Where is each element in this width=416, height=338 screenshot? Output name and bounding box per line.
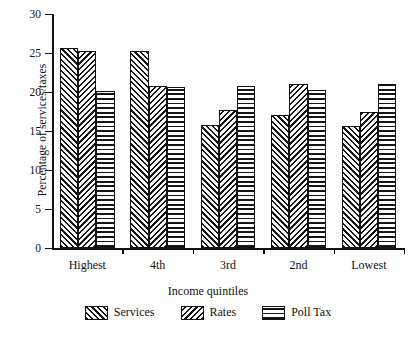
x-axis-line [52,248,404,250]
x-tick [193,248,194,254]
y-tick-label: 0 [35,243,41,255]
y-tick: 10 [45,170,52,171]
bar [130,51,148,248]
bar [360,112,378,248]
y-tick-label: 5 [35,204,41,216]
y-tick: 15 [45,131,52,132]
x-category-label: Lowest [351,258,386,273]
x-tick [122,248,123,254]
bar-chart: Percentage of services/taxes 05101520253… [0,0,416,338]
legend-item: Rates [181,305,237,320]
x-category-label: Highest [69,258,106,273]
y-tick-label: 25 [30,48,42,60]
bar [237,86,255,248]
y-tick: 30 [45,14,52,15]
y-tick-label: 10 [30,165,42,177]
bar [308,90,326,248]
legend-item: Services [85,305,155,320]
bar [289,84,307,248]
bar [149,86,167,248]
x-tick [404,248,405,254]
chart-legend: ServicesRatesPoll Tax [0,305,416,320]
y-axis-line [52,14,54,248]
y-tick: 20 [45,92,52,93]
bar-group [130,14,185,248]
legend-swatch-icon [181,306,204,320]
bar [60,48,78,248]
legend-label: Rates [210,305,237,320]
legend-label: Services [114,305,155,320]
x-axis-title: Income quintiles [0,284,416,299]
bar-group [60,14,115,248]
y-tick-label: 20 [30,87,42,99]
bar [201,125,219,248]
y-tick: 5 [45,209,52,210]
x-tick [334,248,335,254]
x-category-label: 2nd [290,258,308,273]
legend-swatch-icon [85,306,108,320]
bar [219,110,237,248]
bar [167,87,185,248]
plot-area: 051015202530 Highest4th3rd2ndLowest [52,14,404,248]
x-category-label: 3rd [220,258,236,273]
legend-item: Poll Tax [262,305,331,320]
bar-group [342,14,397,248]
bar [271,115,289,248]
x-category-label: 4th [150,258,165,273]
bar [78,51,96,248]
legend-swatch-icon [262,306,285,320]
bar [342,126,360,248]
legend-label: Poll Tax [291,305,331,320]
bar-group [201,14,256,248]
y-tick: 25 [45,53,52,54]
y-tick-label: 30 [30,9,42,21]
bar [96,91,114,248]
y-tick: 0 [45,248,52,249]
bar-group [271,14,326,248]
y-tick-label: 15 [30,126,42,138]
x-tick [263,248,264,254]
bar [378,84,396,248]
